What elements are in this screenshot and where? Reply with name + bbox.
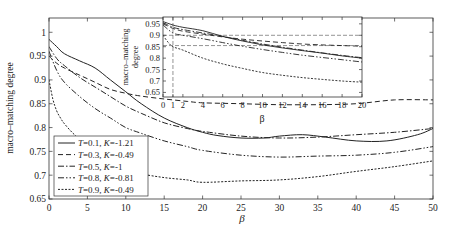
x-tick-label: 10	[121, 203, 131, 213]
y-tick-label: 0.75	[29, 147, 46, 157]
x-tick-label: 8	[240, 100, 244, 110]
y-tick-label: 0.7	[34, 171, 46, 181]
y-tick-label: 0.75	[145, 65, 160, 75]
x-tick-label: 0	[161, 100, 165, 110]
x-tick-label: 45	[390, 203, 400, 213]
y-tick-label: 0.95	[29, 51, 46, 61]
x-tick-label: 0	[47, 203, 52, 213]
x-tick-label: 40	[351, 203, 361, 213]
chart-svg: 051015202530354045500.650.70.750.80.850.…	[0, 0, 450, 236]
x-tick-label: 6	[221, 100, 225, 110]
chart-container: 051015202530354045500.650.70.750.80.850.…	[0, 0, 450, 236]
x-tick-label: 15	[159, 203, 169, 213]
x-tick-label: 5	[85, 203, 90, 213]
y-tick-label: 0.9	[149, 30, 160, 40]
x-tick-label: 16	[318, 100, 327, 110]
x-tick-label: 4	[201, 100, 206, 110]
y-tick-label: 0.65	[145, 87, 160, 97]
y-axis-label: macro–matching degree	[5, 62, 15, 154]
legend-entry: T=0.3, K=-0.49	[78, 150, 134, 160]
y-tick-label: 0.8	[149, 53, 160, 63]
legend: T=0.1, K=-1.21T=0.3, K=-0.49T=0.5, K=-1T…	[54, 136, 148, 196]
inset-x-axis-label: β	[259, 113, 264, 124]
x-axis-label: β	[238, 212, 245, 224]
x-tick-label: 2	[181, 100, 185, 110]
legend-entry: T=0.8, K=-0.81	[78, 173, 134, 183]
x-tick-label: 18	[338, 100, 347, 110]
x-tick-label: 25	[236, 203, 246, 213]
y-tick-label: 0.85	[29, 99, 46, 109]
y-tick-label: 0.85	[145, 42, 160, 52]
legend-entry: T=0.1, K=-1.21	[78, 138, 134, 148]
y-tick-label: 0.9	[34, 75, 46, 85]
x-tick-label: 1	[171, 100, 175, 110]
x-tick-label: 14	[298, 100, 307, 110]
legend-entry: T=0.9, K=-0.49	[78, 185, 134, 195]
x-tick-label: 35	[313, 203, 323, 213]
legend-entry: T=0.5, K=-1	[78, 162, 122, 172]
x-tick-label: 50	[428, 203, 438, 213]
x-tick-label: 20	[358, 100, 367, 110]
x-tick-label: 30	[275, 203, 285, 213]
y-tick-label: 1	[41, 28, 46, 38]
y-tick-label: 0.7	[149, 76, 160, 86]
x-tick-label: 20	[198, 203, 208, 213]
y-tick-label: 0.65	[29, 194, 46, 204]
x-tick-label: 12	[278, 100, 287, 110]
y-tick-label: 0.8	[34, 123, 46, 133]
y-tick-label: 0.95	[145, 19, 160, 29]
x-tick-label: 10	[258, 100, 267, 110]
